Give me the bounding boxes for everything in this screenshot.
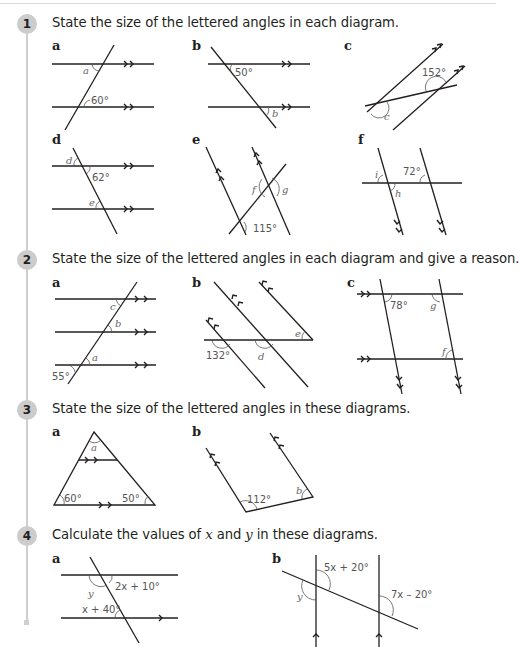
angle-label: 7x – 20°	[391, 589, 432, 600]
angle-label: 78°	[390, 300, 408, 311]
angle-label: e	[89, 197, 95, 208]
diagram-4b: 5x + 20° y 7x – 20°	[282, 555, 432, 647]
angle-label: 115°	[253, 223, 277, 234]
diagram-3b: 112° b	[206, 433, 313, 512]
angle-label: x + 40°	[82, 604, 120, 615]
angle-label: y	[87, 588, 94, 599]
angle-label: b	[115, 318, 121, 329]
angle-label: b	[272, 108, 278, 119]
angle-label: 50°	[122, 493, 140, 504]
angle-label: c	[384, 111, 390, 122]
diagram-1c: 152° c	[365, 44, 465, 130]
angle-label: g	[430, 300, 436, 311]
angle-label: 132°	[206, 350, 230, 361]
diagram-4a: y 2x + 10° x + 40°	[61, 557, 178, 643]
diagram-1a: a 60°	[52, 45, 154, 130]
angle-label: d	[66, 155, 72, 166]
diagram-3a: a 60° 50°	[54, 432, 155, 508]
angle-label: 55°	[52, 371, 70, 382]
angle-label: 112°	[247, 494, 271, 505]
angle-label: 72°	[403, 166, 421, 177]
angle-label: b	[296, 485, 302, 496]
diagram-2a: c b a 55°	[52, 282, 156, 384]
diagram-2c: 78° g f	[357, 279, 463, 394]
diagram-1f: i 72° h	[362, 148, 462, 235]
diagram-1b: 50° b	[208, 47, 310, 128]
angle-label: d	[258, 351, 264, 362]
angle-label: f	[441, 346, 448, 357]
angle-label: f	[251, 184, 258, 195]
angle-label: c	[110, 301, 116, 312]
angle-label: 5x + 20°	[324, 562, 369, 573]
diagram-1d: d 62° e	[52, 148, 154, 234]
diagram-2b: 132° d e	[204, 281, 313, 388]
angle-label: g	[282, 184, 288, 195]
angle-label: a	[91, 442, 97, 453]
angle-label: y	[296, 591, 303, 602]
angle-label: a	[83, 65, 89, 76]
angle-label: 60°	[91, 95, 109, 106]
angle-label: i	[375, 169, 378, 180]
diagram-1e: f g 115°	[206, 147, 290, 235]
angle-label: h	[395, 188, 401, 199]
angle-label: 60°	[64, 493, 82, 504]
angle-label: e	[295, 328, 301, 339]
angle-label: 50°	[235, 67, 253, 78]
angle-label: 2x + 10°	[115, 581, 160, 592]
angle-label: 62°	[92, 172, 110, 183]
angle-label: a	[92, 352, 98, 363]
angle-label: 152°	[422, 67, 446, 78]
